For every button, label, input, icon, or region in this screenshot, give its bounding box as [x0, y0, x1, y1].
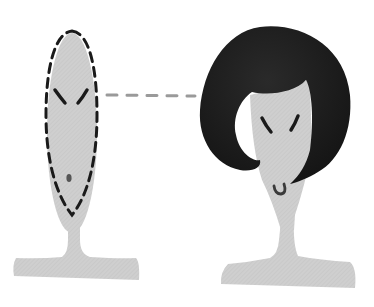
right-mannequin — [200, 26, 356, 288]
right-face — [250, 80, 312, 230]
dashed-connector — [107, 95, 195, 96]
left-mouth-dot — [66, 174, 71, 182]
left-face-oval — [47, 33, 97, 233]
left-mannequin — [13, 31, 139, 280]
illustration — [0, 0, 374, 307]
right-stand-base — [221, 220, 356, 288]
